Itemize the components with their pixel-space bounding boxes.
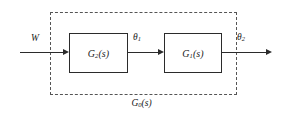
signal-label-theta2-subscript: 2 — [242, 35, 245, 42]
signal-label-theta2: θ2 — [237, 32, 245, 42]
block-g2-label: G2(s) — [88, 48, 110, 59]
block-diagram-canvas: G2(s) G1(s) W θ1 θ2 G0(s) — [0, 0, 283, 117]
signal-line-output — [222, 52, 267, 53]
block-g2: G2(s) — [69, 33, 128, 73]
signal-label-input-w: W — [31, 33, 39, 43]
enclosure-caption-g0: G0(s) — [0, 98, 283, 108]
signal-label-theta1-subscript: 1 — [138, 35, 141, 42]
signal-line-intermediate — [128, 52, 158, 53]
block-g1-label: G1(s) — [182, 48, 204, 59]
signal-line-input — [20, 52, 63, 53]
signal-label-theta1: θ1 — [133, 32, 141, 42]
arrow-head-output — [266, 49, 272, 55]
block-g1: G1(s) — [164, 33, 222, 73]
